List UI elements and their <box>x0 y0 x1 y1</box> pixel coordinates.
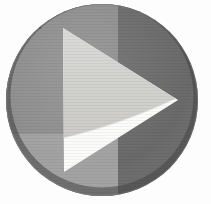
icon-canvas: Grayscale circular play button with righ… <box>0 0 211 204</box>
play-icon[interactable] <box>0 0 211 204</box>
